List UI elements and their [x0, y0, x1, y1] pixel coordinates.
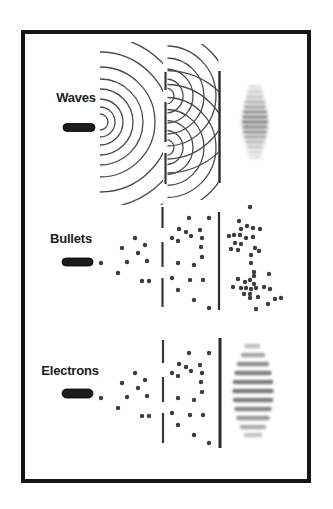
- bullets-dot: [249, 261, 253, 265]
- bullets-dot: [244, 286, 248, 290]
- detection-patterns: [235, 87, 272, 435]
- electrons-dot: [188, 413, 192, 417]
- electrons-dot: [99, 396, 103, 400]
- bullets-dot: [231, 285, 235, 289]
- emitter-sources: [62, 124, 95, 399]
- bullets-dot: [200, 255, 204, 259]
- bullets-dot: [257, 249, 261, 253]
- bullets-dot: [207, 216, 211, 220]
- electrons-dot: [176, 423, 180, 427]
- bullet-source: [62, 258, 93, 266]
- bullets-dot: [189, 234, 193, 238]
- electrons-interference-pattern-group: [235, 346, 272, 435]
- electrons-dot: [116, 406, 120, 410]
- bullets-dot: [133, 236, 137, 240]
- slit-wavefront-arc: [166, 69, 193, 123]
- electrons-dot: [207, 351, 211, 355]
- electrons-dot: [125, 395, 129, 399]
- bullets-dot: [242, 292, 246, 296]
- bullets-dot: [125, 260, 129, 264]
- bullets-dot: [192, 263, 196, 267]
- bullets-dot: [254, 286, 258, 290]
- diagram-canvas: Waves Bullets Electrons: [0, 0, 333, 509]
- bullets-dot: [99, 261, 103, 265]
- bullets-dot: [248, 296, 252, 300]
- electrons-dot: [176, 396, 180, 400]
- bullets-dot: [198, 228, 202, 232]
- electrons-dot: [147, 414, 151, 418]
- bullets-dot: [233, 241, 237, 245]
- bullets-dot: [143, 243, 147, 247]
- waves-interference-pattern-group: [243, 87, 267, 157]
- electrons-dot: [136, 386, 140, 390]
- electrons-dot: [170, 411, 174, 415]
- bullets-dot: [238, 233, 242, 237]
- bullets-dot: [245, 224, 249, 228]
- electrons-dot: [133, 371, 137, 375]
- electrons-dot: [192, 433, 196, 437]
- bullets-dot: [252, 274, 256, 278]
- bullets-dot: [262, 285, 266, 289]
- bullets-dot: [200, 236, 204, 240]
- bullets-dot: [227, 234, 231, 238]
- bullets-dot: [184, 230, 188, 234]
- slit-wavefront-arc: [166, 121, 193, 175]
- slit-wavefront-arc: [166, 88, 174, 104]
- electrons-dot: [207, 441, 211, 445]
- bullets-dot: [147, 279, 151, 283]
- bullets-dot: [145, 259, 149, 263]
- bullets-dot: [237, 219, 241, 223]
- bullets-dot: [244, 236, 248, 240]
- electrons-dot: [176, 374, 180, 378]
- wavefront-arc: [100, 52, 170, 192]
- bullets-dot: [229, 247, 233, 251]
- bullets-dot: [232, 233, 236, 237]
- electrons-dot: [170, 371, 174, 375]
- row-label-electrons: Electrons: [41, 363, 98, 378]
- slit-barriers: [163, 72, 166, 443]
- bullets-dot: [258, 227, 262, 231]
- electron-source: [62, 389, 93, 398]
- bullets-dot: [239, 286, 243, 290]
- bullets-dot: [256, 295, 260, 299]
- bullets-dot: [236, 248, 240, 252]
- electrons-dot: [143, 378, 147, 382]
- bullets-dot: [251, 226, 255, 230]
- bullets-dot: [267, 272, 271, 276]
- bullets-dot: [248, 292, 252, 296]
- bullets-dot: [177, 227, 181, 231]
- bullets-dot: [243, 280, 247, 284]
- bullets-dot: [249, 253, 253, 257]
- electrons-dot: [201, 413, 205, 417]
- double-slit-figure: Waves Bullets Electrons: [0, 0, 333, 509]
- bullets-dot: [120, 246, 124, 250]
- bullets-dot: [254, 307, 258, 311]
- bullets-dot: [248, 205, 252, 209]
- bullets-dot: [248, 278, 252, 282]
- bullets-dot: [176, 261, 180, 265]
- bullets-dot: [188, 278, 192, 282]
- bullets-dot: [116, 271, 120, 275]
- wavefront-arc: [100, 79, 143, 165]
- electrons-dot: [200, 371, 204, 375]
- wave-slit-arcs: [166, 19, 243, 225]
- bullets-dot: [136, 251, 140, 255]
- electrons-dot: [189, 369, 193, 373]
- bullets-dot: [176, 288, 180, 292]
- electrons-dot: [200, 390, 204, 394]
- bullets-dot: [207, 306, 211, 310]
- bullets-dot: [268, 287, 272, 291]
- bullets-dot: [192, 298, 196, 302]
- bullets-dot: [279, 296, 283, 300]
- bullets-dot: [252, 282, 256, 286]
- bullets-dot: [239, 227, 243, 231]
- electrons-dot: [192, 398, 196, 402]
- bullets-dot: [253, 246, 257, 250]
- bullets-dot: [140, 279, 144, 283]
- electrons-dot: [140, 414, 144, 418]
- wavefront-arc: [100, 99, 123, 145]
- bullets-dot: [239, 242, 243, 246]
- bullets-dot: [201, 278, 205, 282]
- bullets-dot: [266, 302, 270, 306]
- electrons-dot: [199, 380, 203, 384]
